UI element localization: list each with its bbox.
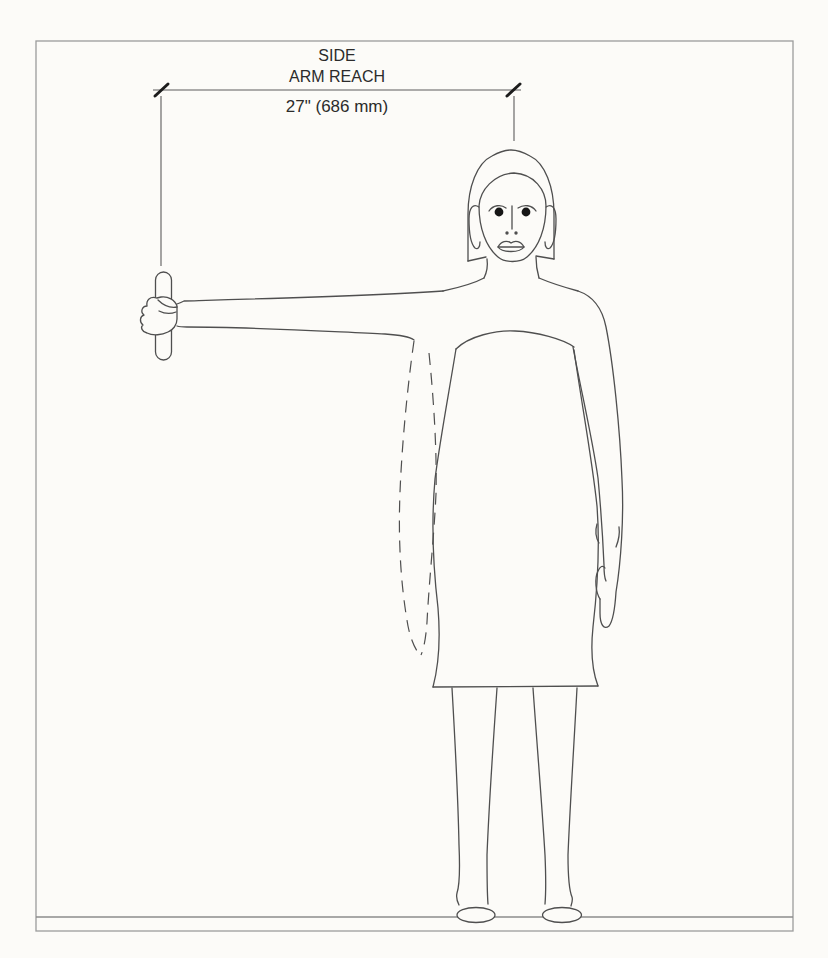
dimension-title-line1: SIDE <box>237 45 437 66</box>
head <box>468 150 556 262</box>
eye-left <box>495 208 504 217</box>
frame-border <box>36 41 793 931</box>
leg-right-outer <box>568 688 577 906</box>
fist-outline <box>140 297 177 335</box>
dimension-value-label: 27" (686 mm) <box>237 96 437 118</box>
leg-left-inner <box>487 688 497 904</box>
hanging-arm-outer <box>578 291 623 627</box>
dimension-title-line2: ARM REACH <box>237 66 437 87</box>
shoulder-left <box>443 278 484 291</box>
person-figure <box>140 150 622 923</box>
hanging-arm-inner <box>573 347 606 581</box>
extended-arm-top <box>177 291 443 304</box>
dress-top-edge <box>456 331 574 349</box>
neck-left <box>484 259 487 278</box>
extended-arm-bottom <box>177 326 414 340</box>
shoulder-right <box>539 278 578 291</box>
leg-right-inner <box>533 688 546 904</box>
eye-right <box>522 208 531 217</box>
neck-right <box>536 257 539 278</box>
extended-arm <box>177 291 443 340</box>
dress <box>433 331 598 687</box>
hair-outline <box>468 150 554 261</box>
ear-left <box>469 206 480 249</box>
gripping-hand <box>140 297 177 335</box>
dress-hem <box>433 686 598 687</box>
frame-rect <box>36 41 793 931</box>
nostril-left <box>505 231 508 234</box>
legs <box>452 688 582 923</box>
hair-bottom-right <box>536 256 554 259</box>
nostril-right <box>514 231 517 234</box>
phantom-arm-outer <box>399 341 421 656</box>
dress-left-edge <box>433 349 456 687</box>
neck-shoulders <box>443 257 578 291</box>
foot-right <box>543 908 582 923</box>
side-arm-reach-drawing <box>0 0 828 958</box>
dress-right-edge <box>574 350 598 686</box>
leg-left-outer <box>452 688 460 905</box>
diagram-page: SIDE ARM REACH 27" (686 mm) <box>0 0 828 958</box>
hair-bottom-left <box>468 257 486 261</box>
foot-left <box>457 908 495 923</box>
phantom-arm <box>399 341 436 656</box>
elbow-mark-outer <box>616 527 619 547</box>
